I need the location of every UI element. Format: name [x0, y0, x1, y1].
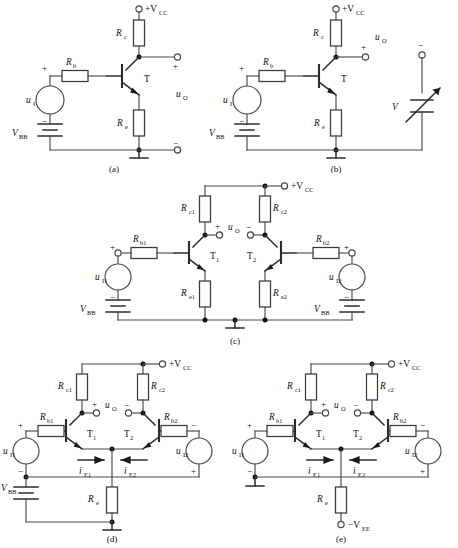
src2-minus-d: − [191, 420, 196, 430]
ground-symbol-b [327, 150, 345, 158]
rb1-label-e: R [268, 412, 275, 422]
emitter-node-left-c [203, 318, 208, 323]
neg-supply-label-e: −V [348, 520, 360, 530]
neg-supply-sub-e: EE [362, 525, 370, 532]
out-terminal-plus-b[interactable] [362, 54, 368, 60]
rc1-sub-d: c1 [66, 386, 72, 393]
resistor-rb2-d [161, 426, 187, 437]
out-minus-sign-a: − [173, 138, 178, 148]
source-ui1-e [242, 438, 268, 464]
ie1-label-e: i [308, 466, 311, 476]
re-sub-d: e [96, 499, 99, 506]
rc-sub-a: c [124, 33, 127, 40]
resistor-rb-b [259, 71, 285, 82]
re-sub-b: e [322, 123, 325, 130]
resistor-rb1-e [267, 426, 293, 437]
src1-sub-d: I1 [10, 451, 15, 458]
out-terminal-minus-c[interactable] [247, 232, 253, 238]
emitter-node-right-c [263, 318, 268, 323]
rc-label-a: R [115, 28, 122, 38]
rb-label-a: R [65, 57, 72, 67]
load-terminal-b[interactable] [419, 52, 425, 58]
vbb-sub-d: BB [8, 488, 17, 495]
resistor-re2-c [260, 281, 271, 307]
out-terminal-plus-e[interactable] [322, 410, 328, 416]
src2-sub-e: I2 [412, 451, 417, 458]
resistor-rb-a [62, 71, 88, 82]
output-label-e: u [334, 400, 339, 410]
rc-sub-b: c [321, 33, 324, 40]
src1-label-c: u [95, 272, 100, 282]
current-arrow-ie1-d: i E1 [78, 460, 104, 478]
output-label-c: u [228, 222, 233, 232]
rc1-sub-e: c1 [295, 386, 301, 393]
rc1-label-c: R [180, 203, 187, 213]
ie1-label-d: i [79, 466, 82, 476]
variable-resistor-b[interactable] [406, 88, 440, 122]
vbb-label-d: V [1, 483, 8, 493]
out-terminal-plus-a[interactable] [174, 54, 180, 60]
out-terminal-plus-c[interactable] [216, 232, 222, 238]
vbb2-sub-c: BB [321, 309, 330, 316]
rc-label-b: R [312, 28, 319, 38]
out-terminal-minus-d[interactable] [125, 410, 131, 416]
output-sub-c: O [235, 227, 240, 234]
output-sub-b: O [382, 37, 387, 44]
src2-label-c: u [329, 272, 334, 282]
source-ui2-d [186, 438, 212, 464]
caption-c: (c) [230, 336, 240, 346]
supply-terminal-b[interactable] [333, 6, 339, 12]
supply-terminal-c[interactable] [281, 183, 287, 189]
resistor-rc1-e [306, 374, 317, 400]
src-plus-a: + [42, 63, 47, 73]
ground-symbol-e [246, 477, 264, 486]
in-terminal-right-c[interactable] [349, 250, 355, 256]
src1-minus-d: − [18, 466, 23, 476]
rb2-label-c: R [315, 234, 322, 244]
src1-plus-e: + [247, 420, 252, 430]
transistor-label-a: T [144, 74, 150, 84]
panel-a: +V CC R c + T R b R e u O [12, 4, 188, 174]
current-arrow-ie1-e: i E1 [307, 460, 333, 478]
out-minus-sign-d: − [124, 400, 129, 410]
source-ui-a [36, 86, 64, 114]
src-label-b: u [223, 95, 228, 105]
supply-label-c: +V [291, 181, 303, 191]
ie2-label-d: i [124, 466, 127, 476]
rb-sub-a: b [73, 62, 76, 69]
supply-terminal-e[interactable] [388, 361, 394, 367]
resistor-rc1-c [200, 196, 211, 222]
out-plus-sign-c: + [215, 221, 220, 231]
rb2-sub-e: b2 [400, 417, 406, 424]
src-sub-a: I [33, 100, 35, 107]
rc2-sub-d: c2 [159, 386, 165, 393]
resistor-rc2-d [138, 374, 149, 400]
panel-e: +V CC R c1 R c2 + u O − T 1 T 2 [232, 359, 441, 544]
circuit-figure: +V CC R c + T R b R e u O [0, 0, 458, 548]
source-ui-b [233, 86, 261, 114]
supply-terminal-a[interactable] [136, 6, 142, 12]
rb2-sub-c: b2 [323, 239, 329, 246]
vbb-sub-a: BB [19, 133, 28, 140]
re-sub-a: e [125, 123, 128, 130]
current-arrow-ie2-e: i E2 [350, 460, 376, 478]
supply-terminal-d[interactable] [159, 361, 165, 367]
src2-label-e: u [405, 446, 410, 456]
resistor-rb1-d [38, 426, 64, 437]
out-terminal-minus-e[interactable] [354, 410, 360, 416]
src-sub-b: I [230, 100, 232, 107]
resistor-rc2-e [367, 374, 378, 400]
output-label-a: u [176, 89, 181, 99]
panel-b: +V CC R c + T R b R e u O − [209, 4, 440, 174]
out-terminal-plus-d[interactable] [93, 410, 99, 416]
neg-supply-terminal-e[interactable] [338, 521, 344, 527]
source-ui1-d [13, 438, 39, 464]
caption-a: (a) [109, 164, 119, 174]
in-terminal-left-c[interactable] [115, 250, 121, 256]
rc1-label-e: R [286, 381, 293, 391]
supply-label-e: +V [398, 359, 410, 369]
re-sub-e: e [325, 499, 328, 506]
src1-label-d: u [3, 446, 8, 456]
battery-vbb-d [14, 487, 38, 499]
rb1-sub-c: b1 [140, 239, 146, 246]
